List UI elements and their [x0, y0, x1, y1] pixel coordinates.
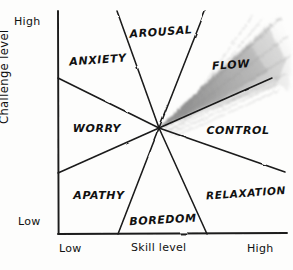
y-axis-low-label: Low — [18, 216, 41, 227]
x-axis-title: Skill level — [131, 242, 186, 253]
divider-relax-boredom — [159, 128, 207, 234]
divider-control-relax — [159, 128, 285, 172]
x-axis-low-label: Low — [59, 243, 82, 254]
y-axis-line — [58, 11, 59, 234]
x-axis-line — [58, 233, 287, 234]
flow-model-diagram: AROUSAL ANXIETY FLOW WORRY CONTROL APATH… — [0, 0, 293, 270]
y-axis-high-label: High — [14, 16, 40, 27]
x-axis-high-label: High — [247, 243, 273, 254]
y-axis-title: Challenge level — [0, 30, 11, 125]
diagram-canvas — [0, 0, 293, 270]
